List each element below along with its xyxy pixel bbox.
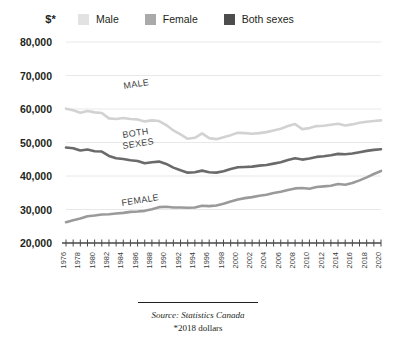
footnote-text: *2018 dollars <box>0 323 396 333</box>
y-axis-tick-label: 70,000 <box>20 70 52 82</box>
footer-divider <box>138 302 258 303</box>
inline-series-label: MALE <box>123 77 150 91</box>
chart-header: $* MaleFemaleBoth sexes <box>0 8 396 30</box>
chart-page: $* MaleFemaleBoth sexes 20,00030,00040,0… <box>0 0 396 352</box>
legend-item-both-sexes[interactable]: Both sexes <box>224 13 294 25</box>
x-axis-tick-label: 1980 <box>88 252 97 268</box>
inline-series-label: FEMALE <box>121 192 160 208</box>
y-axis-tick-label: 30,000 <box>20 204 52 216</box>
series-line-female <box>66 171 381 222</box>
source-text: Source: Statistics Canada <box>0 310 396 320</box>
y-axis-tick-label: 80,000 <box>20 36 52 48</box>
x-axis-tick-label: 2000 <box>231 252 240 268</box>
x-axis-tick-label: 1986 <box>131 252 140 268</box>
x-axis-tick-label: 1990 <box>159 252 168 268</box>
x-axis-tick-label: 2014 <box>331 252 340 268</box>
y-axis-tick-label: 40,000 <box>20 170 52 182</box>
legend-label: Both sexes <box>242 13 294 25</box>
x-axis-tick-label: 2020 <box>374 252 383 268</box>
legend-label: Female <box>163 13 198 25</box>
x-axis-tick-label: 1994 <box>188 252 197 268</box>
y-axis-tick-label: 20,000 <box>20 237 52 249</box>
x-axis-tick-label: 2012 <box>317 252 326 268</box>
y-axis-unit-label: $* <box>0 13 56 25</box>
x-axis-tick-label: 1998 <box>217 252 226 268</box>
chart-plot-area: 20,00030,00040,00050,00060,00070,00080,0… <box>0 34 396 296</box>
legend-swatch-icon <box>224 14 235 25</box>
x-axis-tick-label: 1988 <box>145 252 154 268</box>
legend-swatch-icon <box>78 14 89 25</box>
x-axis-tick-label: 2018 <box>360 252 369 268</box>
x-axis-tick-label: 1992 <box>174 252 183 268</box>
line-chart-svg: 20,00030,00040,00050,00060,00070,00080,0… <box>0 34 396 296</box>
x-axis-tick-label: 1996 <box>202 252 211 268</box>
x-axis-tick-label: 2004 <box>259 252 268 268</box>
x-axis-tick-label: 2006 <box>274 252 283 268</box>
legend-swatch-icon <box>145 14 156 25</box>
y-axis-tick-label: 60,000 <box>20 103 52 115</box>
chart-legend: MaleFemaleBoth sexes <box>78 13 320 25</box>
chart-footer: Source: Statistics Canada *2018 dollars <box>0 302 396 333</box>
x-axis-tick-label: 2010 <box>302 252 311 268</box>
x-axis-tick-label: 2008 <box>288 252 297 268</box>
y-axis-tick-label: 50,000 <box>20 137 52 149</box>
series-line-male <box>66 109 381 139</box>
legend-item-female[interactable]: Female <box>145 13 198 25</box>
x-axis-tick-label: 1976 <box>59 252 68 268</box>
x-axis-tick-label: 1978 <box>73 252 82 268</box>
x-axis-tick-label: 1984 <box>116 252 125 268</box>
x-axis-tick-label: 2016 <box>345 252 354 268</box>
x-axis-tick-label: 1982 <box>102 252 111 268</box>
legend-item-male[interactable]: Male <box>78 13 119 25</box>
legend-label: Male <box>96 13 119 25</box>
series-line-both-sexes <box>66 148 381 173</box>
x-axis-tick-label: 2002 <box>245 252 254 268</box>
